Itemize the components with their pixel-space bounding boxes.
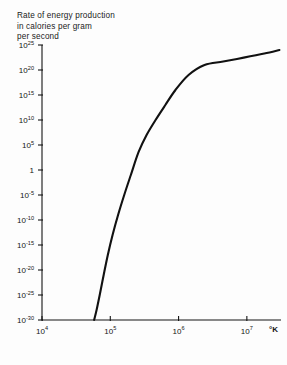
x-tick-label: 104 (36, 325, 48, 336)
x-axis-unit-label: °K (269, 325, 278, 334)
data-curve (94, 50, 279, 320)
y-tick-label: 105 (0, 140, 34, 151)
y-tick-label: 10-10 (0, 215, 34, 226)
y-tick-label: 10-30 (0, 315, 34, 326)
y-tick-label: 10-25 (0, 290, 34, 301)
plot-area (0, 0, 287, 365)
y-tick-label: 1 (0, 166, 34, 175)
y-tick-label: 1010 (0, 115, 34, 126)
x-tick-label: 107 (241, 325, 253, 336)
y-tick-label: 1020 (0, 65, 34, 76)
y-tick-label: 1025 (0, 40, 34, 51)
y-tick-label: 10-15 (0, 240, 34, 251)
x-tick-label: 105 (104, 325, 116, 336)
y-tick-label: 1015 (0, 90, 34, 101)
y-tick-label: 10-20 (0, 265, 34, 276)
chart-figure: Rate of energy production in calories pe… (0, 0, 287, 365)
y-tick-label: 10-5 (0, 190, 34, 201)
x-tick-label: 106 (173, 325, 185, 336)
